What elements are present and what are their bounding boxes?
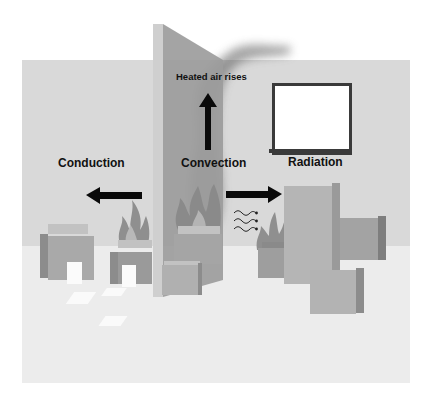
right-cube xyxy=(340,218,378,260)
burning-building-center xyxy=(174,234,222,264)
box-side xyxy=(378,216,386,260)
box-top xyxy=(118,240,152,248)
heat-wave-icon xyxy=(232,209,260,237)
arrow-right-icon xyxy=(224,185,284,205)
box-side xyxy=(332,183,340,283)
radiation-label: Radiation xyxy=(288,155,343,169)
box-side xyxy=(40,234,48,278)
box-top xyxy=(178,226,220,234)
window-frame xyxy=(272,83,352,155)
box-side xyxy=(356,268,364,313)
box-side xyxy=(198,263,202,295)
heated-air-label: Heated air rises xyxy=(176,71,247,82)
convection-label: Convection xyxy=(181,156,246,170)
window-sill xyxy=(269,149,352,153)
arrow-up-icon xyxy=(198,93,218,153)
doorway xyxy=(122,265,136,287)
arrow-left-icon xyxy=(86,186,146,206)
front-cube xyxy=(162,265,198,295)
box-side xyxy=(110,252,118,284)
conduction-label: Conduction xyxy=(58,156,125,170)
fire-icon xyxy=(114,200,154,260)
box-top xyxy=(48,224,88,234)
doorway xyxy=(67,262,82,284)
right-front-cube xyxy=(310,270,356,314)
